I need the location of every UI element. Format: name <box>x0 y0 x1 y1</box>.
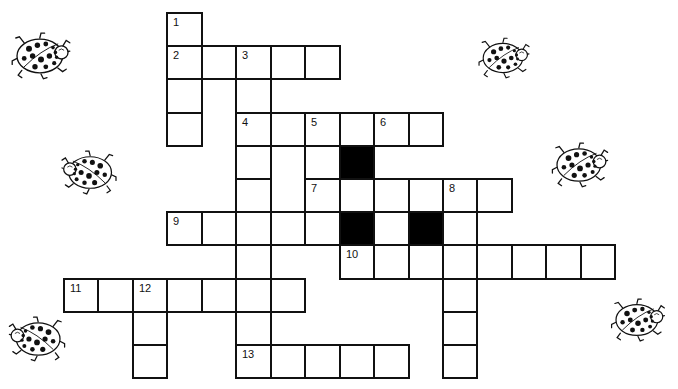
crossword-cell[interactable] <box>442 211 478 246</box>
clue-number: 8 <box>449 183 455 194</box>
clue-number: 6 <box>380 117 386 128</box>
crossword-cell[interactable]: 13 <box>235 344 272 379</box>
ladybug-icon <box>8 316 66 362</box>
crossword-cell[interactable] <box>235 178 272 213</box>
crossword-cell[interactable] <box>235 211 272 246</box>
crossword-cell[interactable] <box>97 278 134 313</box>
crossword-cell[interactable] <box>408 112 444 147</box>
crossword-cell[interactable] <box>442 244 478 280</box>
crossword-cell[interactable] <box>511 244 547 280</box>
crossword-cell[interactable]: 1 <box>166 12 203 47</box>
crossword-cell[interactable] <box>270 278 306 313</box>
ladybug-icon <box>478 33 530 83</box>
clue-number: 12 <box>139 283 151 294</box>
crossword-cell[interactable]: 10 <box>339 244 375 280</box>
crossword-cell[interactable] <box>270 211 306 246</box>
ladybug-icon <box>551 142 609 188</box>
crossword-cell[interactable] <box>235 78 272 114</box>
crossword-cell[interactable] <box>373 344 410 379</box>
crossword-cell[interactable] <box>201 278 237 313</box>
crossword-cell[interactable] <box>166 78 203 114</box>
crossword-cell[interactable] <box>304 145 341 180</box>
crossword-cell[interactable] <box>132 311 168 346</box>
crossword-cell[interactable] <box>545 244 582 280</box>
clue-number: 2 <box>173 50 179 61</box>
crossword-cell[interactable] <box>339 178 375 213</box>
crossword-cell[interactable]: 5 <box>304 112 341 147</box>
crossword-cell[interactable]: 2 <box>166 45 203 80</box>
crossword-cell[interactable] <box>408 244 444 280</box>
clue-number: 7 <box>311 183 317 194</box>
crossword-cell[interactable] <box>373 211 410 246</box>
crossword-cell[interactable] <box>373 244 410 280</box>
crossword-cell[interactable] <box>442 311 478 346</box>
crossword-cell[interactable] <box>201 45 237 80</box>
ladybug-icon <box>10 32 72 80</box>
crossword-cell[interactable] <box>580 244 616 280</box>
crossword-cell[interactable] <box>373 178 410 213</box>
crossword-cell[interactable]: 11 <box>63 278 99 313</box>
crossword-cell[interactable] <box>235 311 272 346</box>
crossword-cell[interactable]: 7 <box>304 178 341 213</box>
crossword-cell[interactable] <box>304 45 341 80</box>
crossword-cell[interactable] <box>339 344 375 379</box>
crossword-cell[interactable] <box>201 211 237 246</box>
crossword-cell[interactable] <box>442 344 478 379</box>
crossword-cell[interactable] <box>235 278 272 313</box>
crossword-cell[interactable] <box>270 45 306 80</box>
clue-number: 4 <box>242 117 248 128</box>
crossword-cell[interactable] <box>442 278 478 313</box>
clue-number: 5 <box>311 117 317 128</box>
crossword-cell[interactable] <box>408 178 444 213</box>
crossword-cell[interactable]: 8 <box>442 178 478 213</box>
crossword-cell[interactable] <box>270 112 306 147</box>
crossword-cell[interactable] <box>476 178 513 213</box>
black-cell <box>408 211 444 246</box>
crossword-cell[interactable] <box>339 112 375 147</box>
crossword-cell[interactable]: 12 <box>132 278 168 313</box>
crossword-cell[interactable] <box>235 145 272 180</box>
crossword-puzzle: 12341356789101112 <box>0 0 678 389</box>
crossword-cell[interactable]: 4 <box>235 112 272 147</box>
black-cell <box>339 145 375 180</box>
clue-number: 9 <box>173 216 179 227</box>
crossword-cell[interactable] <box>270 344 306 379</box>
black-cell <box>339 211 375 246</box>
crossword-cell[interactable] <box>304 344 341 379</box>
clue-number: 10 <box>346 249 358 260</box>
ladybug-icon <box>60 150 118 195</box>
crossword-cell[interactable]: 3 <box>235 45 272 80</box>
crossword-cell[interactable] <box>304 211 341 246</box>
crossword-cell[interactable] <box>235 244 272 280</box>
clue-number: 13 <box>242 349 254 360</box>
clue-number: 3 <box>242 50 248 61</box>
crossword-cell[interactable] <box>476 244 513 280</box>
crossword-cell[interactable]: 9 <box>166 211 203 246</box>
crossword-cell[interactable]: 6 <box>373 112 410 147</box>
clue-number: 11 <box>70 283 81 294</box>
crossword-cell[interactable] <box>166 112 203 147</box>
clue-number: 1 <box>173 17 179 28</box>
crossword-cell[interactable] <box>166 278 203 313</box>
crossword-cell[interactable] <box>132 344 168 379</box>
ladybug-icon <box>608 298 668 342</box>
